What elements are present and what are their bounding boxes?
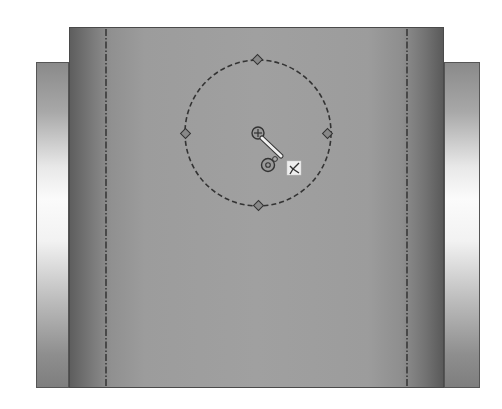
fix-constraint-icon[interactable] (287, 161, 301, 175)
quadrant-point-bottom[interactable] (254, 201, 264, 211)
sketch-overlay (0, 0, 502, 409)
cad-viewport[interactable] (0, 0, 502, 409)
origin-icon[interactable] (262, 157, 278, 172)
drag-handle-icon[interactable] (262, 138, 281, 156)
quadrant-point-top[interactable] (253, 55, 263, 65)
quadrant-point-left[interactable] (181, 129, 191, 139)
